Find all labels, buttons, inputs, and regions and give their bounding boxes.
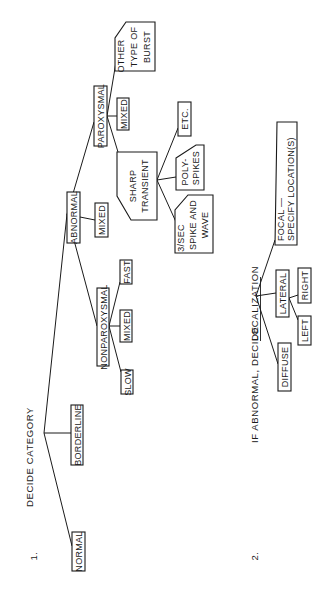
section-1-heading: DECIDE CATEGORY [24,407,35,507]
edge-root-abnormal [44,214,67,433]
node-right: RIGHT [298,268,311,303]
node-lateral-label: LATERAL [278,273,288,314]
node-nonparoxysmal: NONPAROXYSMAL [97,284,109,369]
node-left: LEFT [298,316,311,345]
edge-sharp-etc [157,128,178,180]
node-fast: FAST [120,260,132,284]
node-focal: FOCAL — SPECIFY LOCATION(S) [275,122,297,245]
node-abnormal-mixed-label: MIXED [97,205,107,235]
node-focal-line2: SPECIFY LOCATION(S) [286,137,296,241]
node-paroxysmal: PAROXYSMAL [94,84,107,148]
node-abnormal-mixed: MIXED [95,203,108,237]
node-normal-label: NORMAL [74,531,84,571]
node-left-label: LEFT [300,319,310,342]
node-spike-wave-line1: 3/SEC [176,224,186,252]
edge-abnormal-mixed [80,217,95,220]
node-sharp-transient-line2: TRANSIENT [140,159,150,213]
edge-lateral-left [289,298,298,320]
node-fast-label: FAST [122,260,132,284]
node-etc: ETC. [178,102,191,136]
eeg-decision-diagram: 1. DECIDE CATEGORY NORMAL BORDERL [0,0,336,595]
node-polyspikes-line2: SPIKES [191,151,201,185]
node-other-burst: OTHER TYPE OF BURST [115,22,155,73]
node-slow: SLOW [121,368,133,396]
node-right-label: RIGHT [300,271,310,301]
node-focal-line1: FOCAL — [276,198,286,241]
node-abnormal-label: ABNORMAL [69,191,79,244]
node-borderline-label: BORDERLINE [73,404,83,466]
section-2-heading-prefix: IF ABNORMAL, DECIDE [249,327,260,443]
node-sharp-transient-line1: SHARP [128,170,138,203]
node-polyspikes: POLY- SPIKES [176,145,204,190]
node-other-burst-line1: OTHER [116,39,126,72]
node-polyspikes-line1: POLY- [180,158,190,185]
node-normal: NORMAL [72,531,85,571]
node-parox-mixed-label: MIXED [119,99,129,129]
node-spike-wave-line2: SPIKE AND [188,200,198,250]
section-1: 1. DECIDE CATEGORY NORMAL BORDERL [24,22,213,572]
node-other-burst-line3: BURST [142,31,152,63]
node-etc-label: ETC. [180,108,190,130]
edge-sharp-spikewave [157,180,176,222]
section-1-number: 1. [28,551,39,560]
node-nonparoxysmal-label: NONPAROXYSMAL [99,284,109,369]
node-sharp-transient: SHARP TRANSIENT [117,152,157,220]
node-diffuse: DIFFUSE [278,343,291,391]
node-abnormal: ABNORMAL [67,191,80,244]
edge-root-normal [44,433,72,546]
section-2: 2. IF ABNORMAL, DECIDE LOCALIZATION DIFF… [249,122,311,561]
node-parox-mixed: MIXED [117,98,129,130]
node-spike-wave-line3: WAVE [200,212,210,239]
node-diffuse-label: DIFFUSE [280,347,290,388]
node-borderline: BORDERLINE [71,404,83,466]
edge-sharp-polyspikes [157,177,176,180]
node-nonparox-mixed: MIXED [120,310,132,342]
node-nonparox-mixed-label: MIXED [122,311,132,341]
edge-nonparox-slow [109,326,121,372]
node-spike-wave: 3/SEC SPIKE AND WAVE [175,195,213,253]
section-2-number: 2. [249,551,260,560]
node-other-burst-line2: TYPE OF [129,26,139,67]
edge-parox-sharp [107,116,118,152]
edge-nonparox-fast [109,282,120,326]
node-slow-label: SLOW [123,368,133,396]
edge-lateral-right [289,295,298,298]
node-paroxysmal-label: PAROXYSMAL [96,84,106,148]
node-lateral: LATERAL [276,270,289,317]
